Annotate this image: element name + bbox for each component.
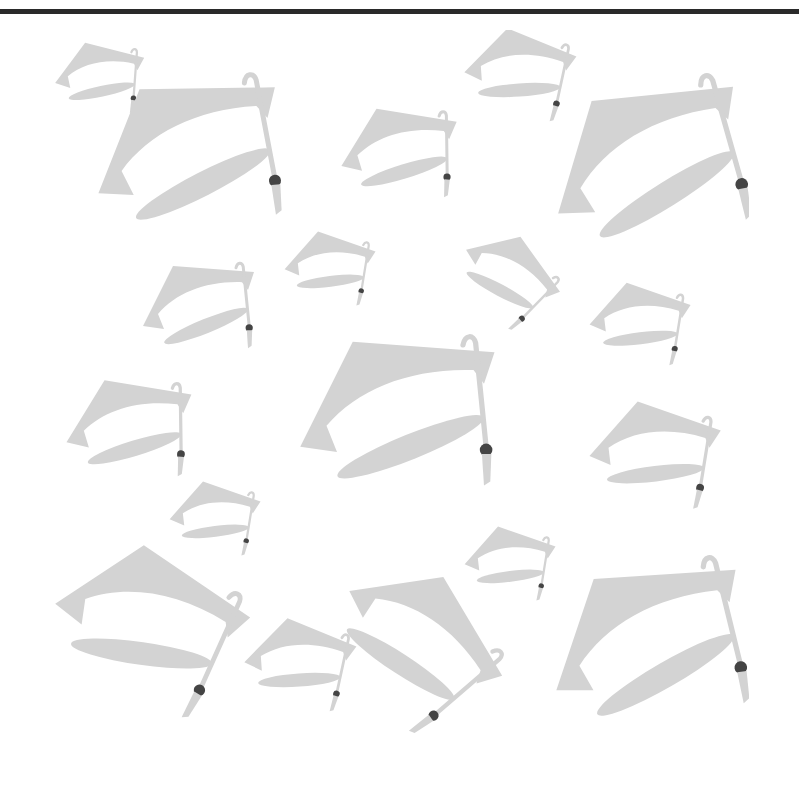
graduation-cap-icon: [541, 554, 754, 731]
graduation-cap-pattern: [0, 0, 799, 786]
graduation-cap-icon: [238, 607, 359, 714]
graduation-cap-icon: [89, 73, 286, 233]
graduation-cap-icon: [585, 274, 693, 367]
graduation-cap-icon: [52, 37, 145, 115]
graduation-cap-icon: [583, 390, 723, 512]
graduation-cap-icon: [64, 374, 192, 478]
graduation-cap-icon: [37, 517, 258, 723]
graduation-cap-icon: [280, 224, 377, 308]
graduation-cap-icon: [143, 263, 254, 349]
graduation-cap-icon: [460, 519, 557, 603]
graduation-cap-icon: [458, 17, 579, 124]
graduation-cap-icon: [165, 474, 262, 558]
graduation-cap-icon: [539, 71, 757, 254]
graduation-cap-icon: [451, 216, 566, 333]
graduation-cap-icon: [339, 103, 457, 199]
graduation-cap-icon: [322, 540, 512, 739]
graduation-cap-icon: [300, 337, 494, 488]
